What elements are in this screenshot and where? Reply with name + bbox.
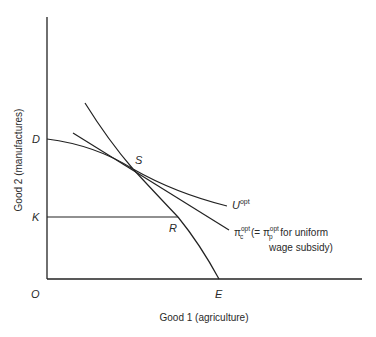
pi-p-subscript: p <box>269 233 273 241</box>
pi-c-subscript: c <box>240 233 244 240</box>
note-open: (= <box>248 227 263 238</box>
point-k-label: K <box>32 211 40 223</box>
utility-curve-label: Uopt <box>232 198 250 211</box>
production-frontier-curve <box>85 103 219 279</box>
diagram-canvas: O D K S R E Uopt πoptc (= πoptp for unif… <box>0 0 376 337</box>
point-e-label: E <box>215 288 223 300</box>
note-continued: for uniform <box>278 227 329 238</box>
utility-symbol: U <box>232 199 240 211</box>
price-line <box>73 133 229 230</box>
origin-label: O <box>31 288 40 300</box>
y-axis-label: Good 2 (manufactures) <box>13 109 24 212</box>
utility-superscript: opt <box>240 198 250 206</box>
x-axis-label: Good 1 (agriculture) <box>160 312 249 323</box>
price-line-label-line2: wage subsidy) <box>268 242 333 253</box>
point-s-label: S <box>135 154 143 166</box>
price-line-label: πoptc (= πoptp for uniform <box>234 225 328 241</box>
point-r-label: R <box>169 222 177 234</box>
point-d-label: D <box>32 133 40 145</box>
